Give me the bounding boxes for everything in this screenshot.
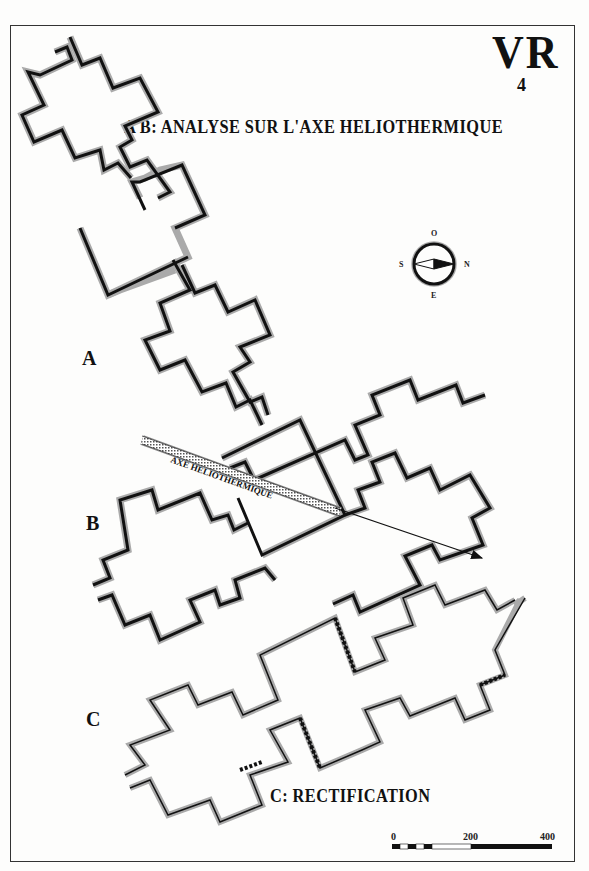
scale-bar: [392, 844, 552, 849]
compass-rose: [412, 242, 456, 286]
compass-label-left: S: [399, 260, 403, 269]
compass-label-top: O: [431, 229, 437, 238]
scale-tick-200: 200: [463, 831, 478, 842]
compass-label-bottom: E: [431, 291, 436, 300]
section-b-buildings: AXE HELIOTHERMIQUE: [93, 380, 490, 640]
sun-direction-arrow: [335, 508, 482, 558]
scale-tick-400: 400: [540, 831, 555, 842]
scale-tick-0: 0: [391, 831, 396, 842]
compass-label-right: N: [464, 260, 470, 269]
section-c-buildings: [125, 585, 525, 822]
plan-drawing: AXE HELIOTHERMIQUE: [0, 0, 589, 871]
section-a-buildings: [22, 37, 270, 425]
